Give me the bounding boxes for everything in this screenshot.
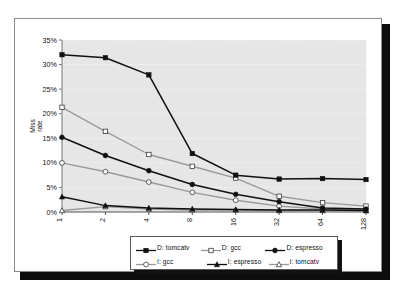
data-point (190, 182, 195, 187)
data-point (320, 176, 324, 180)
data-point (277, 194, 281, 198)
legend-marker (135, 242, 157, 253)
legend-marker-open-triangle (268, 259, 290, 270)
x-axis-tick-label: 1 (55, 218, 64, 222)
chart-legend: D: tomcatvD: gccD: espressoI: gccI: espr… (130, 236, 338, 270)
legend-entry[interactable]: I: gcc (135, 256, 206, 267)
data-point (103, 153, 108, 158)
legend-label: I: gcc (157, 256, 173, 267)
x-axis-tick-label: 64 (316, 218, 325, 226)
legend-marker (264, 242, 286, 253)
data-point (146, 168, 151, 173)
data-point (146, 180, 151, 185)
legend-marker (206, 256, 228, 267)
x-axis-tick-label: 16 (229, 218, 238, 226)
legend-row: I: gccI: espressoI: tomcatv (135, 254, 333, 268)
data-point (320, 200, 324, 204)
legend-marker-glyph (144, 262, 149, 267)
y-axis-tick-label: 15% (43, 134, 58, 143)
data-point (277, 199, 282, 204)
y-axis-title: Missrate (29, 119, 43, 133)
data-point (277, 177, 281, 181)
plot-area-background (62, 40, 366, 212)
y-axis-tick-label: 35% (43, 36, 58, 45)
legend-marker-open-circle (135, 259, 157, 270)
data-point (190, 164, 194, 168)
x-axis-tick-label: 32 (272, 218, 281, 226)
data-point (233, 198, 238, 203)
y-axis-tick-label: 5% (47, 183, 58, 192)
legend-entry[interactable]: I: tomcatv (268, 256, 333, 267)
legend-marker-filled-triangle (206, 259, 228, 270)
miss-rate-line-chart: 0%5%10%15%20%25%30%35%1248163264128Cache… (14, 18, 382, 272)
legend-entry[interactable]: I: espresso (206, 256, 268, 267)
legend-row: D: tomcatvD: gccD: espresso (135, 240, 333, 254)
legend-marker (200, 242, 222, 253)
data-point (147, 73, 151, 77)
x-axis-tick-label: 4 (142, 218, 151, 222)
y-axis-title-line: rate (36, 120, 43, 132)
y-axis-tick-label: 0% (47, 208, 58, 217)
data-point (103, 55, 107, 59)
legend-marker-glyph (209, 248, 213, 252)
y-axis-tick-label: 10% (43, 158, 58, 167)
data-point (103, 169, 108, 174)
data-point (147, 152, 151, 156)
legend-marker-glyph (144, 248, 148, 252)
x-axis-tick-label: 128 (359, 218, 368, 230)
data-point (60, 160, 65, 165)
x-axis-tick-label: 2 (98, 218, 107, 222)
legend-marker (268, 256, 290, 267)
legend-entry[interactable]: D: espresso (264, 242, 333, 253)
data-point (190, 190, 195, 195)
data-point (103, 129, 107, 133)
data-point (60, 135, 65, 140)
y-axis-tick-label: 20% (43, 109, 58, 118)
y-axis-tick-label: 30% (43, 60, 58, 69)
legend-marker-open-square (200, 245, 222, 256)
legend-label: D: gcc (222, 242, 241, 253)
legend-label: I: tomcatv (290, 256, 320, 267)
data-point (233, 192, 238, 197)
y-axis-tick-label: 25% (43, 85, 58, 94)
legend-marker-glyph (273, 248, 278, 253)
data-point (234, 173, 238, 177)
legend-entry[interactable]: D: tomcatv (135, 242, 200, 253)
x-axis-tick-label: 8 (185, 218, 194, 222)
legend-label: D: espresso (286, 242, 322, 253)
data-point (364, 177, 368, 181)
legend-entry[interactable]: D: gcc (200, 242, 265, 253)
legend-marker-filled-square (135, 245, 157, 256)
legend-label: I: espresso (228, 256, 261, 267)
data-point (60, 53, 64, 57)
legend-marker (135, 256, 157, 267)
legend-label: D: tomcatv (157, 242, 190, 253)
chart-canvas: 0%5%10%15%20%25%30%35%1248163264128Cache… (14, 18, 382, 272)
y-axis-title-line: Miss (29, 119, 36, 133)
figure-page: 0%5%10%15%20%25%30%35%1248163264128Cache… (0, 0, 409, 299)
legend-marker-filled-circle (264, 245, 286, 256)
data-point (60, 105, 64, 109)
data-point (190, 151, 194, 155)
